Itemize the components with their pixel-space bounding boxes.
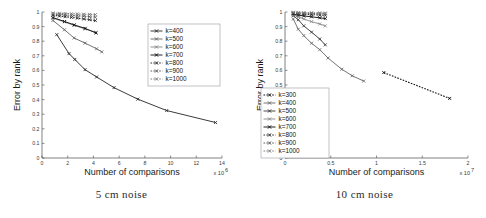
x-tick-label: 0 [284,160,287,166]
legend-entry-label: k=500 [279,107,297,114]
legend-entry-label: k=800 [166,59,184,66]
x-tick-label: 6 [118,160,121,166]
x-tick-label: 10 [168,160,174,166]
x-tick-label: 2 [467,160,470,166]
legend-entry-label: k=400 [166,27,184,34]
x-tick-label: 0 [41,160,44,166]
y-tick-label: 0.6 [32,67,39,73]
data-point-marker [73,58,76,61]
legend-entry-label: k=500 [166,35,184,42]
caption-5cm: 5 cm noise [0,188,243,200]
y-tick-label: 1 [37,9,40,15]
data-point-marker [310,42,313,45]
y-tick-label: 0.1 [32,140,39,146]
legend-entry-label: k=400 [279,99,297,106]
chart-panel-10cm: 00.10.20.30.40.50.60.70.80.9100.511.52Nu… [243,0,486,218]
x-axis-exponent: x 10 [459,170,470,176]
chart-panel-5cm: 00.10.20.30.40.50.60.70.80.9102468101214… [0,0,243,218]
data-point-marker [310,31,313,34]
legend-entry-label: k=300 [279,91,297,98]
y-tick-label: 0 [37,155,40,161]
x-axis-exponent-power: 6 [225,167,228,173]
data-point-marker [340,68,343,71]
data-point-marker [318,48,321,51]
x-axis-exponent: x 10 [213,170,224,176]
data-point-marker [324,43,327,46]
y-tick-label: 0.8 [275,38,282,44]
y-tick-label: 0.8 [32,38,39,44]
x-tick-label: 12 [193,160,199,166]
data-series-line [293,19,363,81]
x-tick-label: 1.5 [419,160,426,166]
x-axis-label: Number of comparisons [84,167,180,177]
data-point-marker [95,75,98,78]
data-point-marker [327,56,330,59]
data-point-marker [302,34,305,37]
y-tick-label: 0.2 [32,126,39,132]
x-axis-exponent-power: 7 [471,167,474,173]
plot-area-5cm: 00.10.20.30.40.50.60.70.80.9102468101214… [0,0,243,195]
data-series-line [384,73,450,99]
y-tick-label: 0.5 [275,82,282,88]
x-tick-label: 4 [92,160,95,166]
x-tick-label: 2 [66,160,69,166]
legend-entry-label: k=1000 [166,75,188,82]
plot-area-10cm: 00.10.20.30.40.50.60.70.80.9100.511.52Nu… [243,0,486,195]
x-tick-label: 8 [143,160,146,166]
legend-entry-label: k=600 [166,43,184,50]
x-tick-label: 1 [375,160,378,166]
y-tick-label: 0.4 [32,97,39,103]
legend-entry-label: k=1000 [279,147,301,154]
y-axis-label: Error by rank [12,58,22,111]
y-tick-label: 1 [280,9,283,15]
legend-entry-label: k=700 [166,51,184,58]
legend-entry-label: k=700 [279,123,297,130]
x-tick-label: 0.5 [327,160,334,166]
y-tick-label: 0.5 [32,82,39,88]
legend-entry-label: k=900 [279,139,297,146]
data-series-line [53,20,102,51]
caption-10cm: 10 cm noise [243,188,486,200]
data-point-marker [68,52,71,55]
x-axis-label: Number of comparisons [329,167,425,177]
y-tick-label: 0.3 [32,111,39,117]
data-point-marker [84,68,87,71]
data-point-marker [55,33,58,36]
y-tick-label: 0.6 [275,67,282,73]
x-tick-label: 14 [219,160,225,166]
y-tick-label: 0.7 [275,53,282,59]
data-point-marker [100,50,103,53]
y-tick-label: 0.9 [275,24,282,30]
data-point-marker [318,38,321,41]
y-tick-label: 0.7 [32,53,39,59]
legend-entry-label: k=600 [279,115,297,122]
legend-entry-label: k=800 [279,131,297,138]
data-point-marker [297,18,300,21]
figure-container: 00.10.20.30.40.50.60.70.80.9102468101214… [0,0,486,218]
data-point-marker [63,28,66,31]
data-point-marker [302,24,305,27]
y-tick-label: 0.9 [32,24,39,30]
legend-entry-label: k=900 [166,67,184,74]
